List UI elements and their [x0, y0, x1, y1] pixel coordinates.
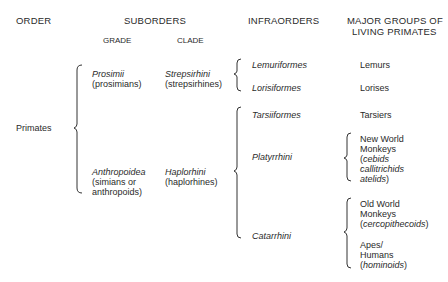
- brace-lines: [0, 0, 448, 282]
- brace-catarrhini-icon: [344, 198, 351, 268]
- brace-primates-icon: [74, 65, 82, 193]
- brace-haplorhini-icon: [234, 107, 241, 238]
- brace-platyrrhini-icon: [344, 133, 351, 181]
- brace-strepsirhini-icon: [234, 59, 241, 91]
